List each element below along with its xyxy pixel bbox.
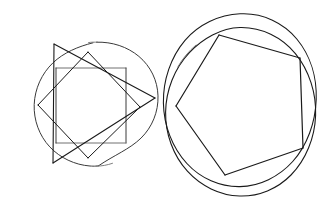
figure-canvas xyxy=(0,0,332,205)
